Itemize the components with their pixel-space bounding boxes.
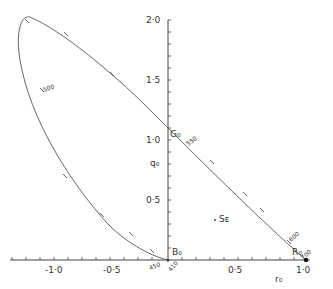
x-tick-label: 1·0 [296, 265, 311, 275]
wavelength-label-500: 500 [42, 82, 55, 93]
y-tick-label: 0·5 [146, 195, 160, 205]
wavelength-label-550: 550 [185, 134, 199, 146]
chromaticity-chart: -1·0 -0·5 0·5 1·0 0·5 1·0 1·5 2·0 r₀ q₀ … [0, 0, 333, 289]
point-label-b0: B₀ [172, 247, 182, 257]
x-axis-label: r₀ [275, 274, 283, 284]
wavelength-label-450: 450 [148, 260, 161, 271]
point-se [214, 219, 216, 221]
y-tick-label: 2·0 [146, 15, 161, 25]
point-label-r0: R₀ [292, 247, 302, 257]
x-tick-label: 0·5 [228, 265, 242, 275]
point-b0 [167, 259, 169, 261]
y-tick-label: 1·5 [146, 75, 160, 85]
point-label-se: Sᴇ [219, 214, 229, 224]
y-tick-label: 1·0 [146, 135, 161, 145]
y-axis-label: q₀ [150, 158, 160, 168]
spectral-locus-curve [18, 17, 306, 260]
x-tick-label: -0·5 [103, 265, 121, 275]
x-tick-label: -1·0 [45, 265, 63, 275]
wavelength-label-600: 600 [287, 230, 300, 243]
point-r0 [304, 258, 308, 262]
point-label-g0: G₀ [170, 129, 181, 139]
